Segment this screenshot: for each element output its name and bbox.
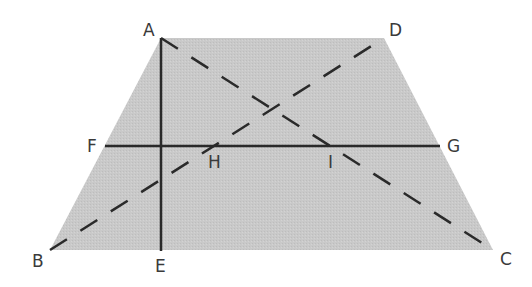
label-a: A (143, 20, 155, 40)
label-f: F (87, 136, 97, 156)
label-g: G (447, 136, 460, 156)
label-h: H (208, 152, 221, 172)
label-e: E (155, 256, 166, 276)
label-b: B (32, 251, 44, 271)
trapezoid-diagram: A D F G H I B E C (0, 0, 532, 287)
label-i: I (328, 152, 333, 172)
label-d: D (389, 20, 402, 40)
trapezoid-abcd (50, 38, 493, 250)
label-c: C (500, 249, 512, 269)
